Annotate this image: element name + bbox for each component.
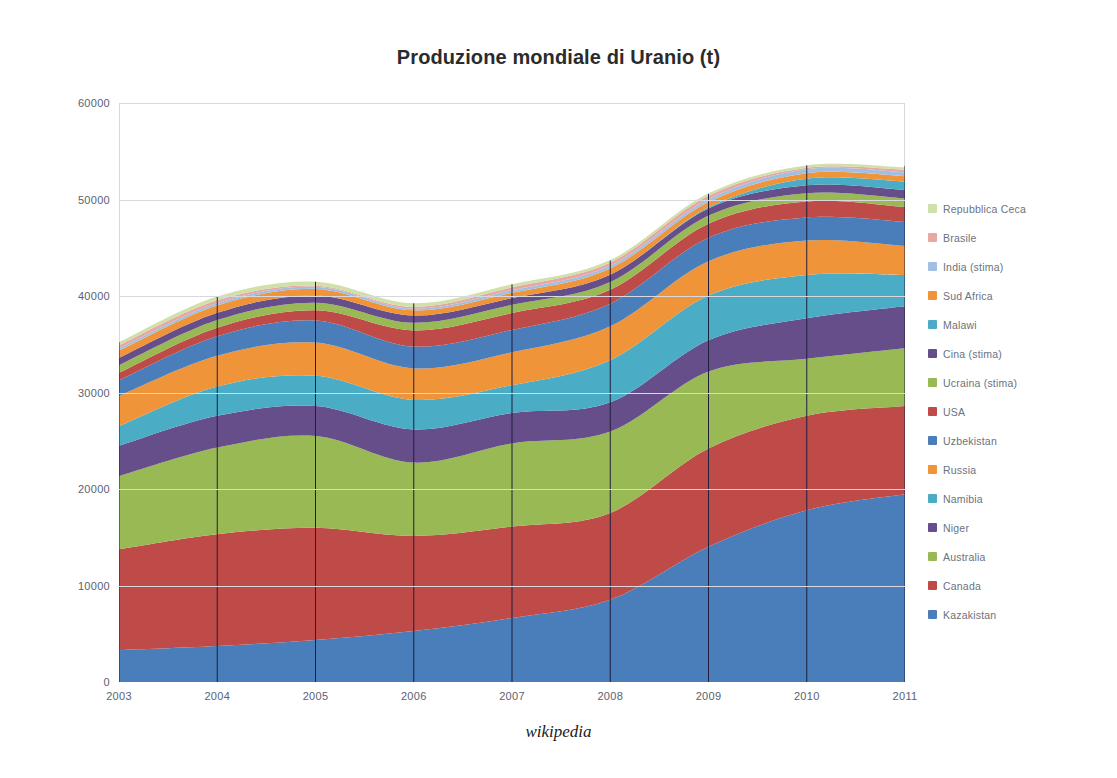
legend-swatch-icon (928, 291, 937, 300)
legend-swatch-icon (928, 552, 937, 561)
chart-legend: Repubblica CecaBrasileIndia (stima)Sud A… (928, 194, 1108, 629)
gridline (119, 393, 905, 394)
legend-swatch-icon (928, 349, 937, 358)
legend-swatch-icon (928, 436, 937, 445)
x-axis: 200320042005200620072008200920102011 (119, 690, 905, 712)
legend-item[interactable]: Cina (stima) (928, 339, 1108, 368)
x-axis-tick-label: 2005 (303, 690, 329, 702)
legend-swatch-icon (928, 610, 937, 619)
legend-swatch-icon (928, 523, 937, 532)
legend-item-label: Canada (943, 580, 981, 592)
legend-swatch-icon (928, 262, 937, 271)
legend-item-label: Brasile (943, 232, 977, 244)
legend-item-label: Australia (943, 551, 986, 563)
legend-item[interactable]: Kazakistan (928, 600, 1108, 629)
legend-item-label: USA (943, 406, 965, 418)
x-axis-tick-label: 2007 (499, 690, 525, 702)
legend-item[interactable]: Australia (928, 542, 1108, 571)
y-axis-tick-label: 60000 (40, 97, 110, 109)
legend-item-label: Kazakistan (943, 609, 996, 621)
legend-swatch-icon (928, 494, 937, 503)
legend-item[interactable]: Namibia (928, 484, 1108, 513)
source-note: wikipedia (0, 722, 1117, 742)
legend-item[interactable]: Malawi (928, 310, 1108, 339)
legend-swatch-icon (928, 581, 937, 590)
legend-item[interactable]: Brasile (928, 223, 1108, 252)
y-axis-tick-label: 30000 (40, 387, 110, 399)
x-axis-tick-label: 2008 (597, 690, 623, 702)
plot-area (119, 103, 905, 682)
x-axis-tick-label: 2009 (696, 690, 722, 702)
x-axis-tick-label: 2006 (401, 690, 427, 702)
legend-swatch-icon (928, 320, 937, 329)
gridline (119, 103, 905, 104)
page-title: Produzione mondiale di Uranio (t) (0, 46, 1117, 69)
legend-item-label: Uzbekistan (943, 435, 997, 447)
legend-item-label: India (stima) (943, 261, 1003, 273)
legend-item[interactable]: India (stima) (928, 252, 1108, 281)
legend-item-label: Malawi (943, 319, 977, 331)
legend-swatch-icon (928, 204, 937, 213)
gridline (119, 296, 905, 297)
y-axis-tick-label: 0 (40, 676, 110, 688)
x-axis-tick-label: 2010 (794, 690, 820, 702)
legend-item[interactable]: Canada (928, 571, 1108, 600)
legend-item[interactable]: Sud Africa (928, 281, 1108, 310)
legend-swatch-icon (928, 407, 937, 416)
gridline (119, 489, 905, 490)
chart-page: Produzione mondiale di Uranio (t) 010000… (0, 0, 1117, 778)
y-axis-tick-label: 20000 (40, 483, 110, 495)
legend-item[interactable]: Ucraina (stima) (928, 368, 1108, 397)
legend-item[interactable]: Uzbekistan (928, 426, 1108, 455)
y-axis-tick-label: 10000 (40, 580, 110, 592)
gridline (119, 586, 905, 587)
y-axis-tick-label: 40000 (40, 290, 110, 302)
legend-item-label: Cina (stima) (943, 348, 1002, 360)
legend-swatch-icon (928, 233, 937, 242)
gridline (119, 200, 905, 201)
legend-swatch-icon (928, 465, 937, 474)
legend-item-label: Ucraina (stima) (943, 377, 1017, 389)
legend-item[interactable]: Repubblica Ceca (928, 194, 1108, 223)
y-axis: 0100002000030000400005000060000 (30, 103, 110, 682)
legend-item-label: Sud Africa (943, 290, 993, 302)
legend-item[interactable]: Russia (928, 455, 1108, 484)
legend-item-label: Niger (943, 522, 969, 534)
x-axis-tick-label: 2011 (893, 690, 918, 702)
legend-item-label: Russia (943, 464, 976, 476)
legend-item[interactable]: USA (928, 397, 1108, 426)
legend-swatch-icon (928, 378, 937, 387)
legend-item-label: Repubblica Ceca (943, 203, 1026, 215)
x-axis-tick-label: 2003 (106, 690, 132, 702)
x-axis-tick-label: 2004 (204, 690, 230, 702)
y-axis-tick-label: 50000 (40, 194, 110, 206)
legend-item-label: Namibia (943, 493, 983, 505)
legend-item[interactable]: Niger (928, 513, 1108, 542)
